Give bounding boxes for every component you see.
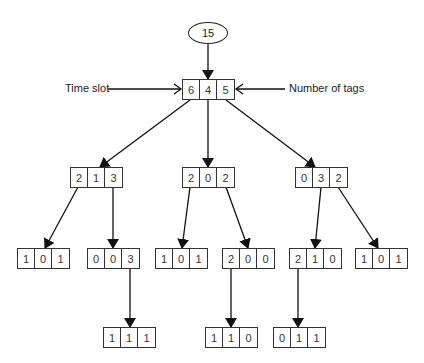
time-slot-cell: 0 bbox=[296, 168, 313, 187]
middle-cell: 0 bbox=[373, 249, 390, 268]
edge-n2-n6 bbox=[182, 187, 190, 248]
tree-node-n6: 101 bbox=[155, 248, 208, 269]
edge-n0-n1 bbox=[100, 100, 190, 167]
edge-n2-n7 bbox=[226, 187, 248, 248]
edge-n3-n8 bbox=[315, 187, 321, 248]
middle-cell: 0 bbox=[105, 249, 122, 268]
tag-count-cell: 1 bbox=[308, 328, 325, 347]
middle-cell: 1 bbox=[307, 249, 324, 268]
tree-node-n2: 202 bbox=[182, 167, 235, 188]
tag-count-cell: 1 bbox=[390, 249, 407, 268]
time-slot-cell: 2 bbox=[71, 168, 88, 187]
time-slot-cell: 2 bbox=[223, 249, 240, 268]
tag-count-cell: 3 bbox=[122, 249, 139, 268]
tree-node-n10: 111 bbox=[103, 327, 156, 348]
tag-count-cell: 1 bbox=[52, 249, 69, 268]
tag-count-cell: 0 bbox=[240, 328, 257, 347]
edge-n3-n9 bbox=[338, 187, 378, 248]
tree-node-n5: 003 bbox=[87, 248, 140, 269]
tree-node-n0: 645 bbox=[182, 79, 235, 100]
tag-count-cell: 1 bbox=[138, 328, 155, 347]
tag-count-cell: 0 bbox=[324, 249, 341, 268]
tree-node-n8: 210 bbox=[289, 248, 342, 269]
middle-cell: 0 bbox=[200, 168, 217, 187]
time-slot-cell: 1 bbox=[356, 249, 373, 268]
tag-count-cell: 1 bbox=[190, 249, 207, 268]
tree-node-n3: 032 bbox=[295, 167, 348, 188]
middle-cell: 0 bbox=[240, 249, 257, 268]
middle-cell: 1 bbox=[291, 328, 308, 347]
tag-count-cell: 3 bbox=[105, 168, 122, 187]
time-slot-cell: 6 bbox=[183, 80, 200, 99]
middle-cell: 0 bbox=[173, 249, 190, 268]
middle-cell: 0 bbox=[35, 249, 52, 268]
middle-cell: 1 bbox=[88, 168, 105, 187]
time-slot-cell: 1 bbox=[156, 249, 173, 268]
root-node-oval: 15 bbox=[188, 22, 228, 44]
middle-cell: 4 bbox=[200, 80, 217, 99]
number-of-tags-label: Number of tags bbox=[289, 82, 364, 94]
time-slot-cell: 1 bbox=[18, 249, 35, 268]
tree-node-n12: 011 bbox=[273, 327, 326, 348]
tag-count-cell: 2 bbox=[330, 168, 347, 187]
edge-n0-n3 bbox=[226, 100, 315, 167]
tree-node-n4: 101 bbox=[17, 248, 70, 269]
tag-count-cell: 5 bbox=[217, 80, 234, 99]
tag-count-cell: 0 bbox=[257, 249, 274, 268]
middle-cell: 3 bbox=[313, 168, 330, 187]
tree-node-n9: 101 bbox=[355, 248, 408, 269]
root-value: 15 bbox=[202, 27, 214, 39]
middle-cell: 1 bbox=[223, 328, 240, 347]
time-slot-cell: 1 bbox=[206, 328, 223, 347]
time-slot-label: Time slot bbox=[65, 82, 109, 94]
time-slot-cell: 0 bbox=[88, 249, 105, 268]
time-slot-cell: 0 bbox=[274, 328, 291, 347]
tree-node-n1: 213 bbox=[70, 167, 123, 188]
tag-count-cell: 2 bbox=[217, 168, 234, 187]
time-slot-cell: 2 bbox=[290, 249, 307, 268]
tree-node-n11: 110 bbox=[205, 327, 258, 348]
time-slot-cell: 1 bbox=[104, 328, 121, 347]
tree-node-n7: 200 bbox=[222, 248, 275, 269]
middle-cell: 1 bbox=[121, 328, 138, 347]
time-slot-cell: 2 bbox=[183, 168, 200, 187]
edge-n1-n4 bbox=[45, 187, 78, 248]
